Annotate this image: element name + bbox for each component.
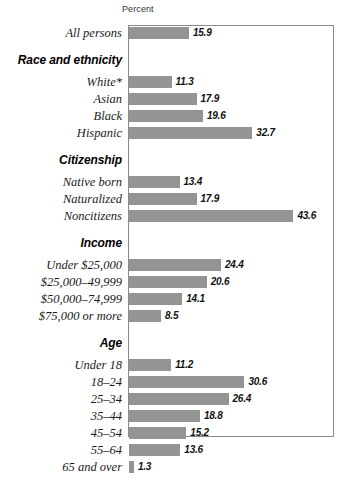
category-label: $50,000–74,999 [0,291,122,307]
group-header-label: Age [0,334,122,353]
chart-bar-row: Under $25,00024.4 [0,257,348,274]
bar [129,293,182,305]
chart-rows: All persons15.9Race and ethnicityWhite*1… [0,25,348,476]
bar [129,27,189,39]
bar [129,427,186,439]
category-label: Asian [0,91,122,107]
bar-group: 13.4 [129,176,202,188]
row-spacer [0,325,348,334]
bar-group: 1.3 [129,461,151,473]
bar [129,210,293,222]
chart-bar-row: $50,000–74,99914.1 [0,291,348,308]
bar-group: 13.6 [129,444,203,456]
category-label: 65 and over [0,459,122,475]
category-label: 45–54 [0,425,122,441]
bar [129,410,200,422]
group-header-label: Income [0,234,122,253]
chart-bar-row: 35–4418.8 [0,408,348,425]
bar-value-label: 20.6 [207,276,230,288]
bar-value-label: 14.1 [182,293,205,305]
row-spacer [0,42,348,51]
bar-value-label: 43.6 [293,210,316,222]
bar-value-label: 26.4 [229,393,252,405]
chart-bar-row: $75,000 or more8.5 [0,308,348,325]
category-label: Native born [0,174,122,190]
bar [129,110,203,122]
category-label: Hispanic [0,125,122,141]
group-header-row: Race and ethnicity [0,51,348,74]
bar-value-label: 11.3 [172,76,194,88]
category-label: Under 18 [0,357,122,373]
bar [129,259,221,271]
bar [129,359,171,371]
row-spacer [0,142,348,151]
chart-bar-row: 55–6413.6 [0,442,348,459]
category-label: 35–44 [0,408,122,424]
chart-bar-row: 25–3426.4 [0,391,348,408]
bar [129,276,207,288]
bar-value-label: 19.6 [203,110,226,122]
bar-value-label: 11.2 [171,359,193,371]
category-label: 18–24 [0,374,122,390]
bar-group: 11.3 [129,76,194,88]
category-label: Black [0,108,122,124]
chart-bar-row: $25,000–49,99920.6 [0,274,348,291]
bar-value-label: 18.8 [200,410,223,422]
bar-value-label: 17.9 [197,193,220,205]
bar-group: 15.2 [129,427,209,439]
chart-bar-row: 45–5415.2 [0,425,348,442]
chart-bar-row: Hispanic32.7 [0,125,348,142]
bar [129,127,252,139]
bar [129,393,229,405]
category-label: Naturalized [0,191,122,207]
group-header-label: Race and ethnicity [0,51,122,70]
bar [129,376,244,388]
bar-group: 30.6 [129,376,267,388]
bar-value-label: 8.5 [161,310,178,322]
bar-group: 19.6 [129,110,226,122]
bar-group: 17.9 [129,93,219,105]
chart-bar-row: Native born13.4 [0,174,348,191]
category-label: $75,000 or more [0,308,122,324]
bar-group: 20.6 [129,276,229,288]
bar-group: 43.6 [129,210,316,222]
bar-value-label: 15.2 [186,427,209,439]
category-label: 25–34 [0,391,122,407]
bar-group: 15.9 [129,27,212,39]
bar-value-label: 30.6 [244,376,267,388]
group-header-label: Citizenship [0,151,122,170]
category-label: Noncitizens [0,208,122,224]
chart-bar-row: Under 1811.2 [0,357,348,374]
chart-bar-row: Black19.6 [0,108,348,125]
bar [129,193,197,205]
bar-value-label: 15.9 [189,27,212,39]
bar-value-label: 13.4 [180,176,203,188]
bar-value-label: 24.4 [221,259,244,271]
chart-bar-row: All persons15.9 [0,25,348,42]
chart-bar-row: Naturalized17.9 [0,191,348,208]
bar [129,444,180,456]
bar-value-label: 32.7 [252,127,275,139]
bar [129,93,197,105]
chart-bar-row: Asian17.9 [0,91,348,108]
category-label: White* [0,74,122,90]
bar-group: 18.8 [129,410,223,422]
group-header-row: Citizenship [0,151,348,174]
chart-bar-row: White*11.3 [0,74,348,91]
bar-group: 17.9 [129,193,219,205]
bar [129,310,161,322]
bar-value-label: 17.9 [197,93,220,105]
bar-group: 8.5 [129,310,178,322]
row-spacer [0,225,348,234]
bar [129,76,172,88]
group-header-row: Income [0,234,348,257]
chart-bar-row: 65 and over1.3 [0,459,348,476]
bar-value-label: 1.3 [134,461,151,473]
chart-bar-row: Noncitizens43.6 [0,208,348,225]
bar-group: 14.1 [129,293,205,305]
bar-value-label: 13.6 [180,444,203,456]
category-label: 55–64 [0,442,122,458]
bar [129,176,180,188]
bar-group: 11.2 [129,359,193,371]
